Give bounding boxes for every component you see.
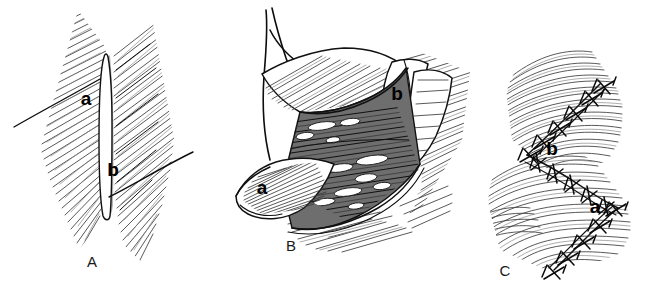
panel-c-callout-b: b xyxy=(546,138,558,159)
surgical-figure-root: a b A xyxy=(0,0,656,300)
panel-b-callout-b: b xyxy=(391,83,403,104)
panel-a-letter: A xyxy=(87,253,97,270)
panel-c-letter: C xyxy=(500,262,511,279)
panel-b-callout-a: a xyxy=(257,177,268,198)
panel-c-callout-a: a xyxy=(590,196,601,217)
panel-a-callout-b: b xyxy=(107,159,119,180)
figure-canvas: a b A xyxy=(0,0,656,300)
panel-b-letter: B xyxy=(286,237,296,254)
incision-outline xyxy=(99,54,112,220)
panel-a-callout-a: a xyxy=(81,88,92,109)
